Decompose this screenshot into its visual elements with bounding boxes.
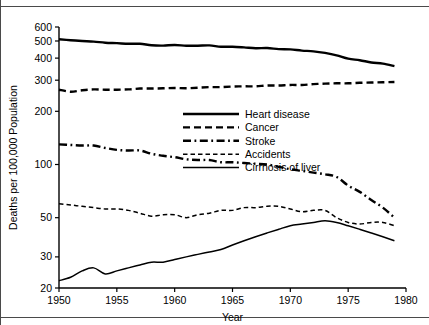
legend-label-cirrhosis-of-liver: Cirrhosis of liver — [245, 161, 321, 173]
series-line-cancer — [59, 82, 394, 92]
y-axis-title: Deaths per 100,000 Population — [7, 85, 19, 230]
series-line-stroke — [59, 144, 394, 217]
x-tick-label: 1965 — [221, 294, 245, 306]
x-tick-label: 1980 — [394, 294, 418, 306]
x-tick-label: 1975 — [336, 294, 360, 306]
x-tick-label: 1970 — [279, 294, 303, 306]
x-tick-label: 1950 — [47, 294, 71, 306]
legend-label-accidents: Accidents — [245, 148, 291, 160]
legend-label-stroke: Stroke — [245, 135, 276, 147]
x-tick-label: 1960 — [163, 294, 187, 306]
y-tick-label: 500 — [34, 35, 52, 47]
series-line-cirrhosis-of-liver — [59, 221, 394, 281]
y-tick-label: 20 — [40, 282, 52, 294]
legend-label-heart-disease: Heart disease — [245, 108, 310, 120]
y-tick-label: 200 — [34, 105, 52, 117]
series-group — [59, 39, 394, 280]
y-tick-label: 100 — [34, 158, 52, 170]
y-tick-label: 50 — [40, 211, 52, 223]
legend-group: Heart diseaseCancerStrokeAccidentsCirrho… — [183, 108, 321, 174]
x-tick-label: 1955 — [105, 294, 129, 306]
y-tick-label: 600 — [34, 21, 52, 33]
y-tick-label: 300 — [34, 74, 52, 86]
x-axis-title: Year — [222, 311, 244, 323]
series-line-accidents — [59, 204, 394, 226]
mortality-line-chart: 2030501002003004005006001950195519601965… — [1, 0, 429, 325]
series-line-heart-disease — [59, 39, 394, 66]
y-tick-label: 400 — [34, 52, 52, 64]
y-tick-label: 30 — [40, 250, 52, 262]
legend-label-cancer: Cancer — [245, 121, 279, 133]
